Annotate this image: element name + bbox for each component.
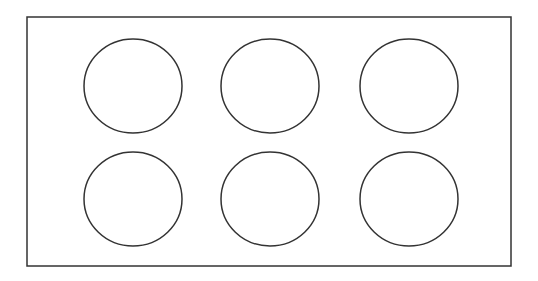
diagram-canvas (0, 0, 538, 281)
circle-2 (221, 39, 319, 133)
circle-6 (360, 152, 458, 246)
circle-grid (84, 39, 458, 246)
circle-5 (221, 152, 319, 246)
circle-3 (360, 39, 458, 133)
outer-frame (27, 17, 511, 266)
circle-1 (84, 39, 182, 133)
circle-4 (84, 152, 182, 246)
